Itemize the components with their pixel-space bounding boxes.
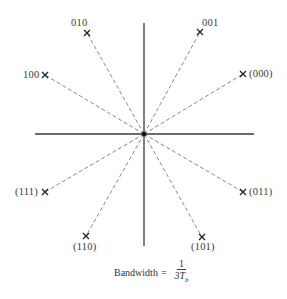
point-label-101: (101): [191, 242, 215, 253]
marker-101-icon: [199, 234, 205, 240]
denominator-text: 3T: [175, 270, 186, 281]
constellation-diagram: 010 001 100 (000) (111) (011) (110) (101…: [0, 0, 287, 299]
marker-000-icon: [240, 71, 246, 77]
origin-dot: [142, 132, 146, 136]
spoke-101: [144, 134, 202, 237]
point-label-010: 010: [71, 18, 87, 29]
marker-011-icon: [240, 189, 246, 195]
spoke-001: [144, 32, 200, 134]
spoke-110: [86, 134, 144, 236]
point-label-000: (000): [249, 69, 273, 80]
marker-111-icon: [42, 189, 48, 195]
bandwidth-caption: Bandwidth = 1 3Tb: [114, 258, 191, 286]
fraction-denominator: 3Tb: [173, 270, 191, 286]
marker-100-icon: [42, 72, 48, 78]
point-label-001: 001: [202, 18, 218, 29]
point-label-111: (111): [15, 187, 38, 198]
diagram-canvas: [0, 0, 287, 299]
spoke-000: [144, 74, 243, 134]
fraction-numerator: 1: [177, 258, 186, 270]
spoke-111: [45, 134, 144, 192]
spoke-100: [45, 75, 144, 134]
marker-110-icon: [83, 233, 89, 239]
spoke-011: [144, 134, 243, 192]
point-label-011: (011): [249, 187, 272, 198]
marker-010-icon: [84, 30, 90, 36]
point-label-110: (110): [73, 242, 96, 253]
caption-equals: =: [161, 267, 167, 278]
caption-text: Bandwidth: [114, 267, 158, 278]
bandwidth-fraction: 1 3Tb: [173, 258, 191, 286]
point-label-100: 100: [23, 70, 39, 81]
spoke-010: [87, 33, 144, 134]
denominator-subscript: b: [185, 276, 189, 284]
marker-001-icon: [197, 29, 203, 35]
